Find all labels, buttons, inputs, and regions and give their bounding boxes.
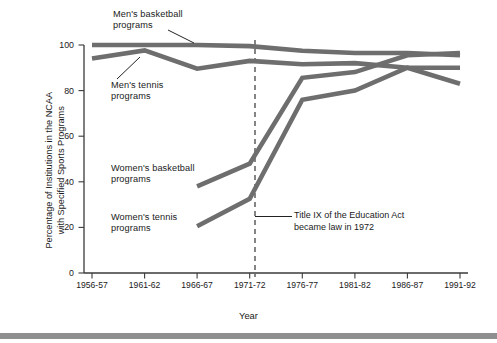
series-label-womens-basketball-line1: Women's basketball bbox=[111, 163, 195, 174]
x-tick-label-1961-62: 1961-62 bbox=[129, 280, 161, 290]
x-tick-label-1986-87: 1986-87 bbox=[392, 280, 424, 290]
series-label-womens-tennis-line2: programs bbox=[111, 223, 177, 234]
series-label-womens-tennis: Women's tennis programs bbox=[111, 212, 177, 235]
y-tick-label-20: 20 bbox=[54, 222, 74, 232]
series-label-womens-tennis-line1: Women's tennis bbox=[111, 212, 177, 223]
x-tick-label-1956-57: 1956-57 bbox=[76, 280, 108, 290]
x-tick-label-1991-92: 1991-92 bbox=[444, 280, 476, 290]
title-ix-annotation: Title IX of the Education Act became law… bbox=[294, 210, 404, 234]
series-label-mens-basketball: Men's basketball programs bbox=[113, 9, 183, 32]
series-line-womens-tennis bbox=[197, 68, 460, 227]
x-tick-label-1976-77: 1976-77 bbox=[287, 280, 319, 290]
x-tick-label-1971-72: 1971-72 bbox=[234, 280, 266, 290]
y-tick-label-60: 60 bbox=[54, 131, 74, 141]
series-label-womens-basketball-line2: programs bbox=[111, 174, 195, 185]
y-tick-label-100: 100 bbox=[54, 40, 74, 50]
bottom-divider-bar bbox=[0, 333, 497, 339]
series-label-mens-tennis-line2: programs bbox=[111, 91, 164, 102]
chart-figure: Percentage of Institutions in the NCAA w… bbox=[0, 0, 497, 343]
x-axis-ticks bbox=[92, 273, 460, 279]
y-tick-label-0: 0 bbox=[54, 268, 74, 278]
callout-leader-mens-tennis bbox=[117, 57, 140, 79]
y-tick-label-40: 40 bbox=[54, 177, 74, 187]
x-tick-label-1966-67: 1966-67 bbox=[181, 280, 213, 290]
x-axis-title: Year bbox=[0, 310, 497, 321]
title-ix-annotation-line1: Title IX of the Education Act bbox=[294, 210, 404, 222]
line-chart-plot bbox=[0, 0, 497, 343]
callout-leader-mens-basketball bbox=[168, 30, 194, 43]
y-tick-label-80: 80 bbox=[54, 86, 74, 96]
series-label-mens-basketball-line2: programs bbox=[113, 20, 183, 31]
series-label-mens-tennis: Men's tennis programs bbox=[111, 80, 164, 103]
series-label-mens-basketball-line1: Men's basketball bbox=[113, 9, 183, 20]
series-label-womens-basketball: Women's basketball programs bbox=[111, 163, 195, 186]
series-label-mens-tennis-line1: Men's tennis bbox=[111, 80, 164, 91]
title-ix-annotation-line2: became law in 1972 bbox=[294, 222, 404, 234]
x-tick-label-1981-82: 1981-82 bbox=[339, 280, 371, 290]
y-axis-ticks bbox=[79, 45, 85, 273]
